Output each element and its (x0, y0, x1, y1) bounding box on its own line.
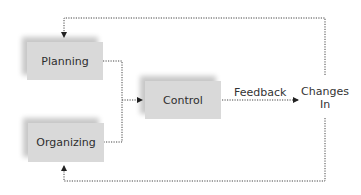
control-box: Control (145, 81, 221, 119)
planning-label: Planning (41, 55, 88, 68)
feedback-label: Feedback (234, 86, 286, 99)
organizing-box: Organizing (28, 123, 104, 162)
organizing-label: Organizing (36, 136, 96, 149)
changes-to-planning-loop (64, 18, 325, 75)
organizing-to-control-line (101, 100, 122, 142)
control-label: Control (163, 94, 203, 107)
changes-in-line2: In (300, 98, 350, 111)
planning-box: Planning (27, 42, 103, 80)
changes-in-label: Changes In (300, 85, 350, 111)
changes-in-line1: Changes (300, 85, 350, 98)
